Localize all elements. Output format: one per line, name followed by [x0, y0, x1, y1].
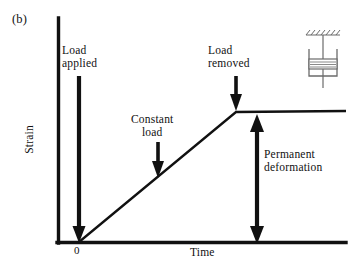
load-removed-arrow	[230, 76, 242, 111]
diagram-canvas	[0, 0, 361, 273]
annotation-label-permanent-deformation: Permanent deformation	[264, 148, 322, 174]
creep-curve	[79, 111, 346, 242]
axes-group	[57, 18, 346, 243]
permanent-deformation-arrow	[250, 114, 264, 244]
load-applied-arrow	[73, 76, 86, 243]
panel-label: (b)	[12, 12, 27, 26]
piston	[309, 59, 337, 69]
y-axis-label: Strain	[23, 107, 36, 171]
annotation-label-load-applied: Load applied	[62, 44, 97, 70]
ground-hatching	[306, 30, 340, 35]
x-axis-label: Time	[190, 246, 215, 259]
dashpot-symbol	[306, 30, 340, 88]
creep-strain-diagram: (b) Load applied Constant load Load remo…	[0, 0, 361, 273]
annotation-label-load-removed: Load removed	[208, 44, 250, 70]
origin-tick-label: 0	[74, 244, 80, 256]
annotation-label-constant-load: Constant load	[131, 113, 174, 139]
creep-curve-path	[79, 111, 346, 242]
